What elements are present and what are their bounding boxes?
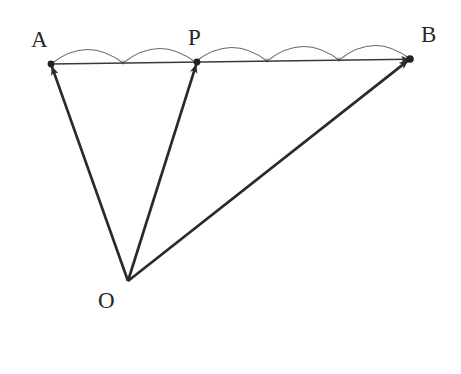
point-label-p: P xyxy=(188,26,201,49)
vectors-from-origin xyxy=(52,61,408,281)
dot-p xyxy=(194,59,201,66)
arc-1 xyxy=(51,49,123,64)
segment-ab xyxy=(51,59,409,64)
arc-3 xyxy=(195,47,267,62)
point-label-b: B xyxy=(421,23,436,46)
point-label-o: O xyxy=(98,289,115,312)
diagram-canvas xyxy=(0,0,461,374)
dot-b xyxy=(406,55,414,63)
arc-4 xyxy=(267,46,339,61)
point-label-a: A xyxy=(31,28,48,51)
vector-op xyxy=(128,65,196,281)
vector-ob xyxy=(128,61,408,281)
vector-oa xyxy=(52,67,128,281)
vector-diagram-figure: A P B O xyxy=(0,0,461,374)
dot-a xyxy=(48,61,55,68)
arc-2 xyxy=(123,48,195,63)
arc-5 xyxy=(339,45,410,59)
